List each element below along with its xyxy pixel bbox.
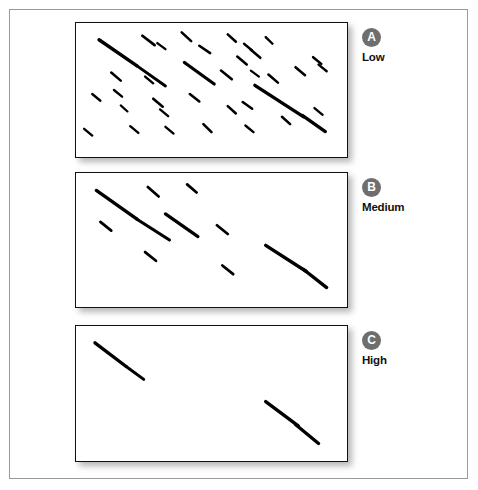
dash-mark: [313, 57, 321, 64]
dash-mark: [203, 124, 211, 132]
dash-mark: [153, 99, 162, 107]
dash-mark: [96, 190, 137, 219]
dash-mark: [268, 75, 277, 83]
panel-label-group-a: A Low: [362, 28, 442, 63]
dash-mark: [160, 109, 168, 116]
dash-mark: [165, 127, 173, 134]
dash-mark: [245, 126, 253, 133]
dash-mark: [148, 187, 159, 196]
dash-mark: [251, 71, 259, 77]
dash-mark: [296, 67, 305, 75]
dash-mark: [121, 105, 128, 111]
dash-mark: [145, 252, 156, 261]
panel-label-group-b: B Medium: [362, 178, 442, 213]
panel-label-group-c: C High: [362, 331, 442, 366]
dash-mark: [142, 36, 154, 45]
panel-badge-b: B: [362, 178, 381, 197]
panel-badge-a: A: [362, 28, 381, 47]
dash-mark: [228, 34, 236, 41]
dash-mark: [314, 108, 322, 115]
panel-c: [75, 325, 348, 462]
panel-c-marks: [76, 326, 347, 461]
dash-mark: [187, 184, 196, 192]
dash-mark: [221, 71, 232, 80]
panel-badge-c: C: [362, 331, 381, 350]
panel-wrapper-c: [75, 325, 348, 462]
dash-mark: [184, 63, 214, 84]
panel-a: [75, 22, 348, 158]
dash-mark: [222, 265, 233, 274]
dash-mark: [114, 90, 122, 97]
panel-wrapper-a: [75, 22, 348, 158]
dash-mark: [157, 43, 165, 49]
dash-mark: [111, 73, 120, 81]
dash-mark: [95, 343, 126, 367]
dash-mark: [243, 102, 252, 109]
dash-mark: [266, 37, 273, 44]
dash-mark: [190, 94, 199, 101]
figure-canvas: A Low B Medium C High: [0, 0, 478, 490]
dash-mark: [137, 219, 170, 240]
dash-mark: [217, 225, 228, 234]
panel-a-marks: [76, 23, 347, 157]
dash-mark: [251, 50, 260, 58]
dash-mark: [266, 245, 307, 271]
panel-wrapper-b: [75, 172, 348, 308]
dash-mark: [126, 367, 144, 380]
dash-mark: [100, 222, 111, 231]
dash-mark: [130, 126, 138, 133]
dash-mark: [282, 117, 290, 124]
panel-label-c: High: [362, 354, 442, 366]
panel-b-marks: [76, 173, 347, 307]
panel-label-b: Medium: [362, 201, 442, 213]
dash-mark: [199, 46, 210, 53]
dash-mark: [92, 94, 100, 101]
dash-mark: [266, 402, 299, 426]
dash-mark: [182, 32, 191, 41]
panel-label-a: Low: [362, 51, 442, 63]
dash-mark: [99, 40, 137, 66]
dash-mark: [228, 106, 236, 113]
dash-mark: [319, 65, 327, 72]
dash-mark: [255, 85, 304, 116]
dash-mark: [296, 425, 319, 444]
dash-mark: [84, 129, 92, 136]
dash-mark: [165, 214, 198, 237]
dash-mark: [304, 269, 327, 287]
dash-mark: [237, 57, 246, 65]
dash-mark: [302, 115, 325, 131]
panel-b: [75, 172, 348, 308]
